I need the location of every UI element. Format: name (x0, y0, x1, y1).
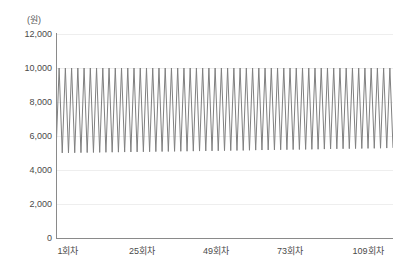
x-tick-label: 1회차 (57, 244, 78, 257)
y-tick-label: 6,000 (4, 131, 52, 141)
x-axis-line (56, 238, 393, 239)
y-axis-unit-label: (원) (27, 13, 41, 26)
y-axis-line (56, 33, 57, 239)
x-tick-label: 25회차 (129, 244, 155, 257)
y-tick-label: 4,000 (4, 165, 52, 175)
y-tick-label: 12,000 (4, 29, 52, 39)
y-tick-label: 2,000 (4, 199, 52, 209)
x-axis-tick-labels: 1회차 25회차 49회차 73회차 109회차 (0, 244, 405, 264)
x-tick-label: 49회차 (203, 244, 229, 257)
y-axis-tick-labels: 12,000 10,000 8,000 6,000 4,000 2,000 0 (0, 34, 52, 238)
plot-area (56, 34, 393, 238)
x-tick-label: 109회차 (352, 244, 383, 257)
chart-container: (원) 12,000 10,000 8,000 6,000 4,000 2,00… (0, 0, 405, 274)
y-tick-label: 0 (4, 233, 52, 243)
y-tick-label: 8,000 (4, 97, 52, 107)
y-tick-label: 10,000 (4, 63, 52, 73)
series-line-monthly-payment (56, 34, 393, 238)
x-tick-label: 73회차 (277, 244, 303, 257)
